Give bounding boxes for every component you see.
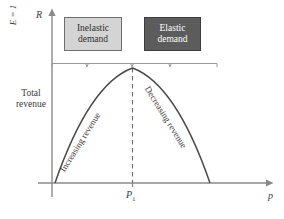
p1-tick-subscript: 1 [132, 195, 136, 203]
elastic-demand-box: Elastic demand [144, 17, 201, 51]
inelastic-demand-box: Inelastic demand [64, 17, 122, 51]
y-axis-title: Total revenue [12, 88, 50, 109]
region-bracket [52, 64, 217, 68]
chart-canvas [0, 0, 284, 219]
elastic-demand-label-line-1: Elastic [160, 23, 186, 34]
bracket-inelastic-midpoint-tick [85, 64, 89, 68]
y-axis-title-line-1: Total [12, 88, 50, 99]
bracket-elastic-midpoint-tick [168, 64, 172, 68]
x-axis [38, 179, 274, 186]
inelastic-demand-label-line-1: Inelastic [77, 23, 109, 34]
bracket-center-tick [130, 64, 134, 68]
elastic-demand-label-line-2: demand [157, 34, 187, 45]
y-axis-title-line-2: revenue [12, 99, 50, 110]
p1-tick-label: P1 [126, 189, 136, 204]
x-axis-name: p [268, 190, 273, 201]
x-axis-arrowhead [266, 179, 274, 186]
total-revenue-elasticity-figure: R p Total revenue P1 Inelastic demand El… [0, 0, 284, 219]
y-axis-arrowhead [48, 9, 55, 17]
inelastic-demand-label-line-2: demand [78, 34, 108, 45]
unit-elasticity-text: E = 1 [8, 5, 18, 26]
y-axis-name: R [36, 9, 42, 20]
